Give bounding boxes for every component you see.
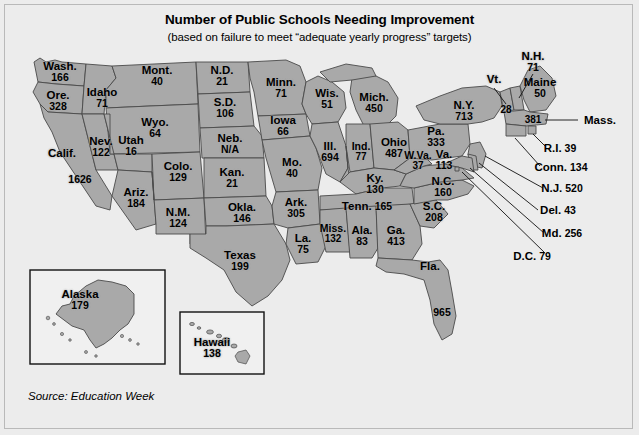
state-label-va: Va.113 <box>436 148 453 172</box>
state-label-ma-value: 381 <box>525 115 542 126</box>
state-label-tn: Tenn.165 <box>342 200 392 213</box>
state-shape-dc <box>455 167 459 171</box>
state-label-ny: N.Y.713 <box>453 99 474 123</box>
state-label-ca: Calif. <box>48 147 76 159</box>
state-label-ut: Utah16 <box>118 134 144 158</box>
state-label-nc: N.C.160 <box>432 175 455 199</box>
state-label-ca-value: 1626 <box>68 174 91 185</box>
state-label-wa: Wash.166 <box>43 60 76 84</box>
state-label-dc: D.C.79 <box>513 250 551 263</box>
state-label-co: Colo.129 <box>164 160 193 184</box>
state-label-id: Idaho71 <box>87 86 118 110</box>
state-shape-ri <box>528 126 536 134</box>
state-label-la: La.75 <box>295 232 312 256</box>
state-label-az: Ariz.184 <box>124 186 149 210</box>
state-label-wv: W.Va.37 <box>404 150 431 172</box>
us-map: Wash.166 Ore.328 Calif. 1626 Idaho71 Nev… <box>0 48 639 388</box>
page-title: Number of Public Schools Needing Improve… <box>0 12 639 27</box>
state-shape-ct <box>506 124 526 136</box>
state-label-nv: Nev.122 <box>89 135 112 159</box>
state-label-ar: Ark.305 <box>285 196 307 220</box>
state-label-pa: Pa.333 <box>427 125 445 149</box>
state-label-ia: Iowa66 <box>270 114 296 138</box>
state-label-wy: Wyo.64 <box>141 116 168 140</box>
state-label-me: Maine50 <box>524 76 557 100</box>
state-label-ri: R.I.39 <box>544 142 577 155</box>
state-label-nd: N.D.21 <box>211 64 234 88</box>
hawaii-inset-label: Hawaii138 <box>194 336 230 360</box>
state-label-mn: Minn.71 <box>266 76 296 100</box>
state-label-nj: N.J.520 <box>541 182 583 195</box>
state-label-tx: Texas199 <box>224 249 256 273</box>
state-label-al: Ala.83 <box>351 224 372 248</box>
state-label-wi: Wis.51 <box>315 87 339 111</box>
state-label-mo: Mo.40 <box>282 156 302 180</box>
state-label-ks: Kan.21 <box>220 166 245 190</box>
state-label-de: Del.43 <box>540 204 576 217</box>
state-label-ma: Mass. <box>584 114 616 126</box>
state-label-nh: N.H.71 <box>522 50 545 74</box>
alaska-inset-label: Alaska179 <box>61 288 98 312</box>
state-label-sc: S.C.208 <box>423 200 445 224</box>
state-label-md: Md.256 <box>542 227 582 240</box>
state-label-fl: Fla. <box>420 260 440 272</box>
state-label-il: Ill.694 <box>321 140 339 164</box>
state-label-or: Ore.328 <box>46 89 69 113</box>
state-shape-fl <box>376 258 456 340</box>
map-infographic: Number of Public Schools Needing Improve… <box>0 0 639 435</box>
state-label-ct: Conn.134 <box>534 161 587 174</box>
state-label-fl-value: 965 <box>433 307 451 318</box>
state-label-in: Ind.77 <box>352 141 371 163</box>
page-subtitle: (based on failure to meet “adequate year… <box>0 31 639 43</box>
state-label-ms: Miss.132 <box>320 223 346 245</box>
state-label-vt: Vt. <box>487 73 502 85</box>
state-label-mi: Mich.450 <box>359 91 388 115</box>
state-label-ga: Ga.413 <box>387 224 406 248</box>
state-label-vt-value: 28 <box>500 105 511 116</box>
state-label-ky: Ky.130 <box>366 172 384 196</box>
state-label-mt: Mont.40 <box>142 64 173 88</box>
state-label-ok: Okla.146 <box>228 201 256 225</box>
state-label-ne: Neb.N/A <box>218 132 243 156</box>
state-label-oh: Ohio487 <box>381 136 407 160</box>
source-attribution: Source: Education Week <box>28 390 154 402</box>
state-label-sd: S.D.106 <box>214 96 236 120</box>
state-label-nm: N.M.124 <box>166 206 190 230</box>
